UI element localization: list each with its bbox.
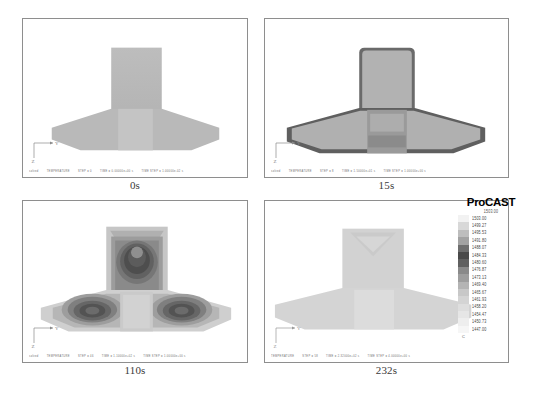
panel-15s-caption: 15s	[264, 179, 509, 191]
status-field: TEMPERATURE	[47, 169, 70, 173]
legend-band: 1495.53	[458, 230, 524, 237]
legend-band-list: 1503.001499.271495.531491.801488.071484.…	[458, 215, 524, 333]
status-step: STEP = 58	[302, 354, 318, 358]
legend-swatch	[458, 230, 469, 237]
legend-band: 1476.87	[458, 267, 524, 274]
legend-band-value: 1499.27	[472, 223, 486, 228]
svg-text:Y: Y	[297, 326, 301, 331]
legend-band-value: 1458.20	[472, 305, 486, 310]
legend-band: 1458.20	[458, 304, 524, 311]
legend-band: 1499.27	[458, 222, 524, 229]
panel-0s-status: solved TEMPERATURE STEP = 0 TIME = 0.000…	[29, 169, 243, 174]
legend-swatch	[458, 274, 469, 281]
status-dataset: solved	[29, 354, 39, 358]
panel-0s-caption: 0s	[22, 179, 248, 191]
svg-text:Y: Y	[297, 141, 301, 146]
svg-text:Z: Z	[274, 159, 277, 164]
status-time: TIME = 0.00000e+00 s	[100, 169, 133, 173]
legend-band: 1465.67	[458, 289, 524, 296]
svg-text:Z: Z	[32, 344, 35, 349]
legend-swatch	[458, 267, 469, 274]
status-step: STEP = 46	[78, 354, 94, 358]
svg-text:Y: Y	[55, 326, 59, 331]
legend-band: 1503.00	[458, 215, 524, 222]
status-dataset: solved	[271, 169, 281, 173]
panel-232s-caption: 232s	[264, 364, 509, 376]
panel-15s-frame: Y Z solved TEMPERATURE STEP = 8 TIME = 1…	[264, 18, 509, 178]
status-time: TIME = 1.10000e+02 s	[102, 354, 135, 358]
status-field: TEMPERATURE	[47, 354, 70, 358]
panel-232s-status: TEMPERATURE STEP = 58 TIME = 2.32000e+02…	[271, 354, 504, 359]
legend-band-value: 1454.47	[472, 312, 486, 317]
legend-band: 1480.60	[458, 259, 524, 266]
legend-swatch	[458, 237, 469, 244]
status-time-step: TIME STEP = 1.00000e-02 s	[141, 169, 183, 173]
legend-band: 1454.47	[458, 311, 524, 318]
panel-110s-frame: Y Z solved TEMPERATURE STEP = 46 TIME = …	[22, 200, 248, 363]
axis-triad-110s: Y Z	[29, 322, 63, 348]
legend-band-value: 1465.67	[472, 290, 486, 295]
legend-band: 1469.40	[458, 282, 524, 289]
status-time: TIME = 2.32000e+02 s	[326, 354, 359, 358]
legend-band-value: 1476.87	[472, 268, 486, 273]
status-dataset: solved	[29, 169, 39, 173]
legend-band: 1488.07	[458, 245, 524, 252]
legend-band-value: 1503.00	[472, 216, 486, 221]
status-step: STEP = 0	[78, 169, 92, 173]
legend-band-value: 1495.53	[472, 231, 486, 236]
legend-band-value: 1473.13	[472, 275, 486, 280]
panel-110s-caption: 110s	[22, 364, 248, 376]
status-time-step: TIME STEP = 4.00000e+00 s	[368, 354, 411, 358]
legend-band: 1473.13	[458, 274, 524, 281]
svg-text:Y: Y	[55, 141, 59, 146]
legend-unit-label: C	[462, 334, 524, 339]
status-time: TIME = 1.50000e+01 s	[342, 169, 375, 173]
status-time-step: TIME STEP = 1.00000e+00 s	[143, 354, 186, 358]
legend-swatch	[458, 215, 469, 222]
legend-band-value: 1484.33	[472, 253, 486, 258]
legend-band: 1450.73	[458, 318, 524, 325]
legend-swatch	[458, 311, 469, 318]
panel-15s-status: solved TEMPERATURE STEP = 8 TIME = 1.500…	[271, 169, 504, 174]
legend-band: 1484.33	[458, 252, 524, 259]
legend-band-value: 1491.80	[472, 238, 486, 243]
axis-triad-232s: Y Z	[271, 322, 305, 348]
panel-15s: Y Z solved TEMPERATURE STEP = 8 TIME = 1…	[264, 18, 509, 178]
procast-legend: ProCAST 1503.00 1503.001499.271495.53149…	[458, 196, 524, 339]
legend-band-value: 1450.73	[472, 319, 486, 324]
legend-band-value: 1447.00	[472, 327, 486, 332]
procast-logo: ProCAST	[458, 196, 524, 208]
legend-swatch	[458, 245, 469, 252]
legend-swatch	[458, 282, 469, 289]
status-time-step: TIME STEP = 1.00000e+00 s	[383, 169, 426, 173]
status-step: STEP = 8	[320, 169, 334, 173]
legend-band-value: 1461.93	[472, 297, 486, 302]
panel-0s: Y Z solved TEMPERATURE STEP = 0 TIME = 0…	[22, 18, 248, 178]
legend-swatch	[458, 304, 469, 311]
legend-swatch	[458, 222, 469, 229]
svg-text:Z: Z	[274, 344, 277, 349]
status-field: TEMPERATURE	[289, 169, 312, 173]
panel-110s: Y Z solved TEMPERATURE STEP = 46 TIME = …	[22, 200, 248, 363]
legend-band-value: 1469.40	[472, 283, 486, 288]
legend-swatch	[458, 252, 469, 259]
legend-swatch	[458, 318, 469, 325]
panel-110s-status: solved TEMPERATURE STEP = 46 TIME = 1.10…	[29, 354, 243, 359]
legend-band-value: 1480.60	[472, 260, 486, 265]
axis-triad-0s: Y Z	[29, 137, 63, 163]
legend-band-value: 1488.07	[472, 246, 486, 251]
legend-band: 1491.80	[458, 237, 524, 244]
legend-swatch	[458, 326, 469, 333]
figure-sheet: Y Z solved TEMPERATURE STEP = 0 TIME = 0…	[0, 0, 535, 394]
legend-swatch	[458, 296, 469, 303]
legend-swatch	[458, 259, 469, 266]
legend-band: 1461.93	[458, 296, 524, 303]
axis-triad-15s: Y Z	[271, 137, 305, 163]
panel-0s-frame: Y Z solved TEMPERATURE STEP = 0 TIME = 0…	[22, 18, 248, 178]
legend-band: 1447.00	[458, 326, 524, 333]
status-field: TEMPERATURE	[271, 354, 294, 358]
svg-text:Z: Z	[32, 159, 35, 164]
legend-swatch	[458, 289, 469, 296]
legend-top-value: 1503.00	[458, 209, 524, 214]
